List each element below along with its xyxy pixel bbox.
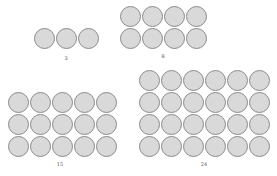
circle-grid <box>138 70 270 158</box>
circle-icon <box>30 136 51 157</box>
circle-icon <box>161 136 182 157</box>
circle-icon <box>52 136 73 157</box>
circle-icon <box>56 28 77 49</box>
circle-icon <box>183 136 204 157</box>
circle-icon <box>227 92 248 113</box>
circle-icon <box>205 136 226 157</box>
circle-icon <box>183 92 204 113</box>
circle-icon <box>205 70 226 91</box>
circle-icon <box>249 114 270 135</box>
circle-grid <box>7 92 117 158</box>
circle-icon <box>96 114 117 135</box>
circle-icon <box>52 92 73 113</box>
circle-icon <box>52 114 73 135</box>
circle-icon <box>164 28 185 49</box>
circle-icon <box>161 114 182 135</box>
circle-icon <box>227 136 248 157</box>
circle-icon <box>120 6 141 27</box>
circle-icon <box>74 92 95 113</box>
circle-group-3 <box>33 28 99 50</box>
circle-icon <box>74 114 95 135</box>
circle-icon <box>30 92 51 113</box>
circle-group-15 <box>7 92 117 158</box>
circle-icon <box>34 28 55 49</box>
circle-icon <box>183 70 204 91</box>
circle-icon <box>96 136 117 157</box>
circle-icon <box>161 70 182 91</box>
circle-icon <box>186 6 207 27</box>
group-count-label: 24 <box>201 161 207 167</box>
circle-group-24 <box>138 70 270 158</box>
circle-icon <box>74 136 95 157</box>
circle-icon <box>120 28 141 49</box>
circle-icon <box>8 114 29 135</box>
group-count-label: 3 <box>64 55 67 61</box>
circle-icon <box>186 28 207 49</box>
circle-icon <box>96 92 117 113</box>
circle-icon <box>227 70 248 91</box>
circle-icon <box>139 114 160 135</box>
circle-icon <box>78 28 99 49</box>
group-count-label: 8 <box>161 53 164 59</box>
circle-icon <box>139 136 160 157</box>
circle-icon <box>30 114 51 135</box>
circle-icon <box>227 114 248 135</box>
circle-icon <box>205 114 226 135</box>
circle-group-8 <box>119 6 207 50</box>
circle-icon <box>8 136 29 157</box>
circle-icon <box>8 92 29 113</box>
circle-icon <box>161 92 182 113</box>
circle-icon <box>249 92 270 113</box>
circle-icon <box>249 70 270 91</box>
circle-icon <box>249 136 270 157</box>
circle-icon <box>164 6 185 27</box>
circle-grid <box>33 28 99 50</box>
circle-icon <box>142 28 163 49</box>
circle-icon <box>139 92 160 113</box>
group-count-label: 15 <box>57 161 63 167</box>
circle-grid <box>119 6 207 50</box>
circle-icon <box>183 114 204 135</box>
circle-icon <box>142 6 163 27</box>
circle-icon <box>139 70 160 91</box>
circle-icon <box>205 92 226 113</box>
